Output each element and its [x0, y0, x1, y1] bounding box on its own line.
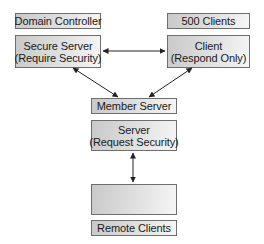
- clients-count-label: 500 Clients: [182, 15, 236, 27]
- arrow-secure-to-member: [73, 68, 118, 97]
- network-security-diagram: Domain Controller Secure Server (Require…: [0, 0, 264, 244]
- domain-controller-label-box: Domain Controller: [15, 13, 101, 29]
- server-title: Server: [118, 124, 150, 136]
- remote-clients-node: [91, 184, 177, 215]
- domain-controller-label: Domain Controller: [15, 15, 102, 27]
- secure-server-title: Secure Server: [23, 40, 92, 52]
- member-server-label: Member Server: [97, 100, 172, 112]
- remote-clients-label-box: Remote Clients: [91, 220, 177, 236]
- client-policy: (Respond Only): [171, 52, 247, 64]
- server-node: Server (Request Security): [91, 120, 177, 151]
- member-server-label-box: Member Server: [91, 98, 177, 114]
- secure-server-node: Secure Server (Require Security): [15, 35, 101, 68]
- server-policy: (Request Security): [89, 136, 178, 148]
- arrow-client-to-member: [149, 68, 192, 97]
- clients-count-label-box: 500 Clients: [167, 13, 250, 29]
- remote-clients-label: Remote Clients: [97, 222, 171, 234]
- secure-server-policy: (Require Security): [15, 52, 102, 64]
- client-title: Client: [195, 40, 223, 52]
- client-node: Client (Respond Only): [167, 35, 250, 68]
